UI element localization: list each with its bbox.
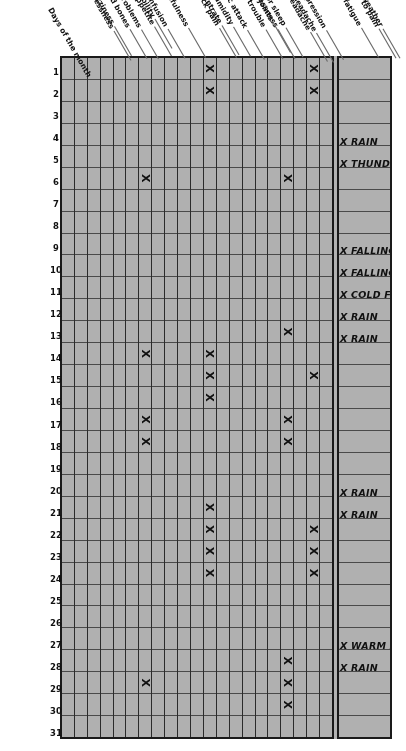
symptom-cell[interactable] [230, 497, 242, 519]
symptom-cell[interactable] [178, 453, 190, 475]
symptom-cell[interactable] [191, 146, 203, 168]
symptom-cell[interactable] [165, 277, 177, 299]
symptom-cell[interactable] [152, 190, 164, 212]
symptom-cell[interactable] [256, 299, 268, 321]
symptom-cell[interactable] [256, 124, 268, 146]
symptom-cell[interactable] [243, 387, 255, 409]
symptom-cell[interactable] [204, 606, 216, 628]
symptom-cell[interactable]: X [281, 650, 293, 672]
symptom-cell[interactable] [320, 694, 332, 716]
symptom-cell[interactable] [165, 431, 177, 453]
symptom-cell[interactable] [62, 585, 74, 607]
symptom-cell[interactable] [62, 409, 74, 431]
symptom-cell[interactable] [204, 146, 216, 168]
symptom-cell[interactable] [75, 387, 87, 409]
symptom-cell[interactable]: X [204, 497, 216, 519]
symptom-cell[interactable] [114, 343, 126, 365]
symptom-cell[interactable] [281, 365, 293, 387]
symptom-cell[interactable] [127, 606, 139, 628]
symptom-cell[interactable] [204, 234, 216, 256]
symptom-cell[interactable] [320, 124, 332, 146]
symptom-cell[interactable] [281, 146, 293, 168]
symptom-cell[interactable] [268, 190, 280, 212]
weather-note-cell[interactable]: X RAIN [339, 519, 390, 541]
symptom-cell[interactable] [165, 58, 177, 80]
symptom-cell[interactable] [75, 102, 87, 124]
symptom-cell[interactable] [256, 190, 268, 212]
symptom-cell[interactable] [127, 212, 139, 234]
symptom-cell[interactable] [88, 321, 100, 343]
symptom-cell[interactable] [204, 431, 216, 453]
symptom-cell[interactable] [307, 299, 319, 321]
symptom-cell[interactable] [139, 650, 151, 672]
symptom-cell[interactable] [101, 124, 113, 146]
symptom-cell[interactable] [243, 299, 255, 321]
symptom-cell[interactable] [139, 628, 151, 650]
symptom-cell[interactable] [320, 387, 332, 409]
symptom-cell[interactable] [75, 519, 87, 541]
symptom-cell[interactable] [281, 190, 293, 212]
symptom-cell[interactable] [88, 585, 100, 607]
symptom-cell[interactable] [114, 716, 126, 737]
symptom-cell[interactable] [268, 563, 280, 585]
symptom-cell[interactable] [230, 519, 242, 541]
symptom-cell[interactable] [268, 321, 280, 343]
symptom-cell[interactable] [62, 212, 74, 234]
symptom-cell[interactable] [256, 497, 268, 519]
symptom-cell[interactable] [75, 80, 87, 102]
symptom-cell[interactable] [127, 563, 139, 585]
symptom-cell[interactable] [139, 102, 151, 124]
symptom-cell[interactable] [101, 694, 113, 716]
symptom-cell[interactable] [230, 102, 242, 124]
symptom-cell[interactable] [152, 299, 164, 321]
symptom-cell[interactable] [191, 541, 203, 563]
symptom-cell[interactable] [178, 212, 190, 234]
symptom-cell[interactable] [191, 80, 203, 102]
symptom-cell[interactable] [152, 716, 164, 737]
symptom-cell[interactable] [88, 343, 100, 365]
symptom-cell[interactable] [152, 628, 164, 650]
symptom-cell[interactable] [217, 628, 229, 650]
symptom-cell[interactable] [88, 102, 100, 124]
symptom-cell[interactable] [230, 58, 242, 80]
symptom-cell[interactable] [256, 606, 268, 628]
symptom-cell[interactable] [268, 585, 280, 607]
symptom-cell[interactable] [307, 716, 319, 737]
symptom-cell[interactable] [165, 190, 177, 212]
symptom-cell[interactable] [101, 563, 113, 585]
symptom-cell[interactable] [88, 431, 100, 453]
symptom-cell[interactable] [127, 519, 139, 541]
symptom-cell[interactable] [114, 672, 126, 694]
symptom-cell[interactable] [62, 606, 74, 628]
symptom-cell[interactable] [178, 365, 190, 387]
symptom-cell[interactable] [243, 563, 255, 585]
symptom-cell[interactable] [307, 234, 319, 256]
symptom-cell[interactable] [88, 716, 100, 737]
symptom-cell[interactable] [62, 190, 74, 212]
symptom-cell[interactable] [75, 299, 87, 321]
symptom-cell[interactable] [217, 234, 229, 256]
symptom-cell[interactable] [62, 475, 74, 497]
symptom-cell[interactable] [75, 255, 87, 277]
symptom-cell[interactable] [217, 585, 229, 607]
symptom-cell[interactable] [256, 519, 268, 541]
symptom-cell[interactable] [217, 102, 229, 124]
symptom-cell[interactable] [178, 650, 190, 672]
symptom-cell[interactable] [139, 606, 151, 628]
symptom-cell[interactable] [62, 234, 74, 256]
symptom-cell[interactable] [127, 387, 139, 409]
symptom-cell[interactable] [88, 541, 100, 563]
symptom-cell[interactable] [217, 343, 229, 365]
weather-note-cell[interactable]: X RAIN [339, 343, 390, 365]
symptom-cell[interactable] [230, 606, 242, 628]
symptom-cell[interactable] [139, 321, 151, 343]
symptom-cell[interactable] [243, 146, 255, 168]
symptom-cell[interactable] [191, 255, 203, 277]
symptom-cell[interactable] [204, 255, 216, 277]
symptom-cell[interactable] [307, 475, 319, 497]
symptom-cell[interactable] [217, 650, 229, 672]
symptom-cell[interactable] [114, 409, 126, 431]
symptom-cell[interactable] [243, 212, 255, 234]
symptom-cell[interactable] [243, 124, 255, 146]
symptom-cell[interactable] [139, 299, 151, 321]
